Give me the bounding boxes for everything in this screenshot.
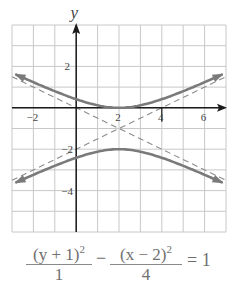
equals-one: = 1 [187,250,211,271]
numerator-x: (x − 2) [120,245,166,264]
fraction-y-term: (y + 1)2 1 [26,240,92,285]
hyperbola-graph: −22462−2−4y [0,0,229,240]
x-tick-label: −2 [27,111,39,123]
denominator-4: 4 [110,265,182,285]
numerator-y: (y + 1) [33,245,79,264]
y-tick-label: 2 [64,60,70,72]
denominator-1: 1 [26,265,92,285]
hyperbola-equation: (y + 1)2 1 − (x − 2)2 4 = 1 [0,238,229,287]
curve-arrow-icon [212,74,224,82]
curve-arrow-icon [14,175,26,183]
minus-sign: − [96,248,106,269]
y-tick-label: −4 [61,185,73,197]
grid-lines [12,25,226,232]
fraction-x-term: (x − 2)2 4 [110,240,182,285]
curve-arrow-icon [212,175,224,183]
x-tick-label: 2 [115,111,121,123]
x-tick-label: 4 [158,111,164,123]
y-axis-label: y [68,3,78,22]
curve-arrow-icon [14,74,26,82]
x-tick-label: 6 [201,111,207,123]
y-tick-label: −2 [61,143,73,155]
